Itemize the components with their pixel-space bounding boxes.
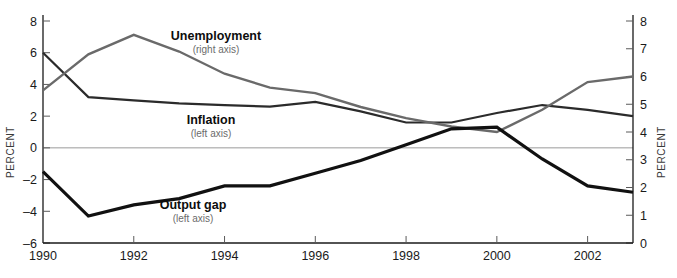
left-tick-label: 6 bbox=[30, 46, 37, 60]
right-tick-label: 1 bbox=[640, 209, 647, 223]
right-tick-label: 8 bbox=[640, 15, 647, 29]
x-tick-label: 1998 bbox=[392, 249, 420, 263]
right-axis-title: PERCENT bbox=[656, 126, 667, 178]
left-tick-label: 2 bbox=[30, 110, 37, 124]
left-tick-label: –2 bbox=[23, 173, 37, 187]
x-tick-label: 1992 bbox=[120, 249, 148, 263]
left-tick-label: 0 bbox=[30, 141, 37, 155]
right-tick-label: 0 bbox=[640, 237, 647, 251]
annotation-title: Unemployment bbox=[171, 29, 262, 43]
right-tick-label: 3 bbox=[640, 153, 647, 167]
right-tick-label: 2 bbox=[640, 181, 647, 195]
right-tick-label: 4 bbox=[640, 126, 647, 140]
economic-indicators-line-chart: –6–4–202468 012345678 199019921994199619… bbox=[0, 0, 677, 278]
right-tick-label: 7 bbox=[640, 42, 647, 56]
annotation-title: Inflation bbox=[187, 113, 236, 127]
left-tick-label: –4 bbox=[23, 205, 37, 219]
x-tick-label: 2000 bbox=[483, 249, 511, 263]
x-tick-label: 1990 bbox=[29, 249, 57, 263]
annotation-subtitle: (left axis) bbox=[173, 213, 214, 224]
right-tick-label: 5 bbox=[640, 98, 647, 112]
x-tick-label: 2002 bbox=[574, 249, 602, 263]
x-tick-label: 1996 bbox=[301, 249, 329, 263]
chart-container: –6–4–202468 012345678 199019921994199619… bbox=[0, 0, 677, 278]
annotation-title: Output gap bbox=[160, 198, 227, 212]
x-tick-label: 1994 bbox=[211, 249, 239, 263]
left-axis-title: PERCENT bbox=[5, 126, 16, 178]
annotation-subtitle: (right axis) bbox=[193, 44, 240, 55]
annotation-inflation: Inflation(left axis) bbox=[187, 113, 236, 139]
left-tick-label: 4 bbox=[30, 78, 37, 92]
left-tick-label: 8 bbox=[30, 15, 37, 29]
chart-background bbox=[0, 0, 677, 278]
annotation-subtitle: (left axis) bbox=[191, 128, 232, 139]
right-tick-label: 6 bbox=[640, 70, 647, 84]
